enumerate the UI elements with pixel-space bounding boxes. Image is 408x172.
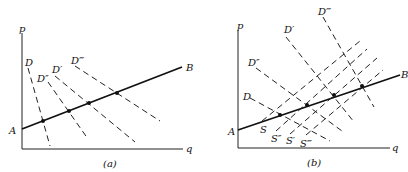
point-a-label: A — [227, 126, 235, 137]
label-d-prime: D′ — [283, 24, 295, 35]
demand-curve-d-prime — [286, 37, 354, 122]
equilibrium-point — [41, 119, 45, 123]
equilibrium-point — [332, 93, 336, 97]
equilibrium-point — [67, 109, 71, 113]
point-a-label: A — [8, 125, 16, 136]
label-d-double-prime: D″ — [247, 57, 260, 68]
equilibrium-point — [87, 101, 91, 105]
ab-line — [238, 75, 400, 130]
label-d-prime: D′ — [51, 64, 63, 75]
label-s-double-prime: S″ — [271, 133, 282, 144]
point-b-label: B — [185, 62, 193, 73]
p-axis-label: p — [19, 23, 26, 34]
label-d-triple-prime: D‴ — [70, 55, 85, 66]
supply-curve-s — [262, 41, 360, 121]
panel-caption-b: (b) — [307, 157, 321, 168]
equilibrium-point — [305, 103, 309, 107]
panel-b: p q A B D D″ D′ D‴ S S″ S′ S‴ (b) — [227, 6, 408, 168]
equilibrium-point — [115, 91, 119, 95]
diagram-canvas: p q A B D D″ D′ D‴ (a) p q A B — [0, 0, 408, 172]
label-d: D — [24, 57, 33, 68]
q-axis-label: q — [186, 143, 192, 154]
label-d: D — [242, 91, 251, 102]
equilibrium-point — [278, 113, 282, 117]
label-d-double-prime: D″ — [36, 73, 49, 84]
q-axis-label: q — [392, 142, 398, 153]
point-b-label: B — [400, 69, 408, 80]
panel-caption-a: (a) — [103, 158, 117, 169]
label-s-triple-prime: S‴ — [300, 138, 313, 149]
label-d-triple-prime: D‴ — [317, 6, 332, 17]
label-s-prime: S′ — [286, 135, 296, 146]
panel-a: p q A B D D″ D′ D‴ (a) — [8, 23, 193, 169]
label-s: S — [260, 124, 267, 135]
equilibrium-point — [360, 84, 364, 88]
p-axis-label: p — [237, 20, 244, 31]
